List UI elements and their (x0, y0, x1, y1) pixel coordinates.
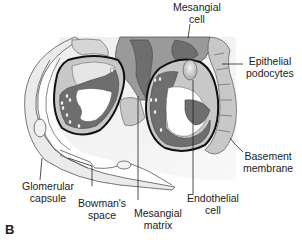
label-basement-membrane: Basement membrane (243, 150, 293, 174)
panel-label: B (5, 222, 14, 237)
label-mesangial-cell: Mesangial cell (173, 1, 221, 25)
label-glomerular-capsule: Glomerular capsule (22, 180, 74, 204)
label-bowmans-space: Bowman's space (78, 197, 126, 221)
endothelial-cell-nucleus (183, 60, 197, 80)
label-epithelial-podocytes: Epithelial podocytes (246, 55, 294, 79)
label-endothelial-cell: Endothelial cell (187, 192, 239, 216)
label-mesangial-matrix: Mesangial matrix (134, 207, 182, 231)
